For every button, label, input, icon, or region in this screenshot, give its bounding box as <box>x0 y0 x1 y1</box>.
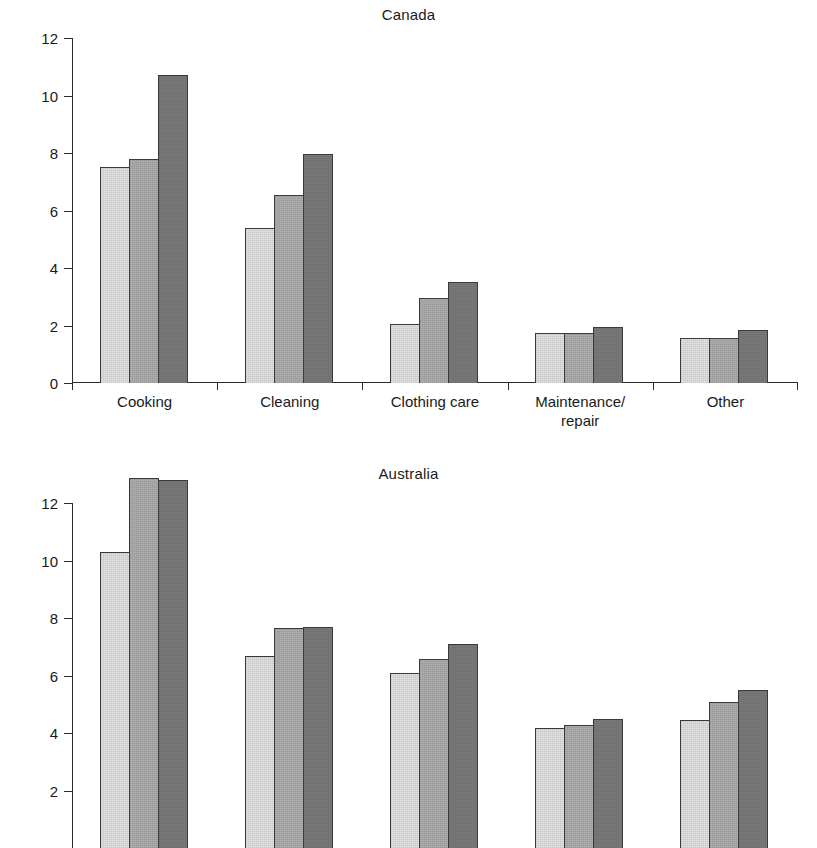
bar <box>303 154 333 383</box>
bar <box>274 195 304 383</box>
chart-title-canada: Canada <box>0 6 817 23</box>
bar-group <box>535 503 625 848</box>
y-tick-label: 10 <box>41 552 58 569</box>
bar <box>709 338 739 383</box>
y-tick-mark <box>64 733 72 734</box>
bar <box>100 552 130 848</box>
y-tick-mark <box>64 791 72 792</box>
bar-group <box>390 38 480 383</box>
x-tick-mark <box>72 383 73 390</box>
bar <box>158 75 188 383</box>
bar-group <box>680 38 770 383</box>
chart-panel-australia: Australia 24681012 <box>0 445 817 833</box>
category-label: Cleaning <box>217 392 362 411</box>
bar <box>680 338 710 383</box>
y-tick-mark <box>64 383 72 384</box>
chart-panel-canada: Canada 024681012 CookingCleaningClothing… <box>0 0 817 445</box>
y-tick-mark <box>64 38 72 39</box>
y-tick-label: 2 <box>50 317 58 334</box>
y-tick-label: 6 <box>50 202 58 219</box>
bar <box>419 298 449 383</box>
y-tick-label: 4 <box>50 725 58 742</box>
bar <box>448 282 478 383</box>
category-label-line: repair <box>508 411 653 430</box>
bar <box>419 659 449 848</box>
y-tick-mark <box>64 561 72 562</box>
y-tick-mark <box>64 676 72 677</box>
category-label: Clothing care <box>362 392 507 411</box>
category-label: Cooking <box>72 392 217 411</box>
category-label-line: Clothing care <box>362 392 507 411</box>
bar <box>158 480 188 848</box>
category-label-line: Cooking <box>72 392 217 411</box>
category-label-line: Cleaning <box>217 392 362 411</box>
bar <box>680 720 710 848</box>
plot-area-australia: 24681012 <box>72 503 798 848</box>
x-tick-mark <box>508 383 509 390</box>
bar-group <box>535 38 625 383</box>
category-label-line: Maintenance/ <box>508 392 653 411</box>
y-tick-mark <box>64 96 72 97</box>
y-tick-label: 12 <box>41 495 58 512</box>
bar <box>390 673 420 848</box>
bar <box>448 644 478 848</box>
bar-group <box>390 503 480 848</box>
y-tick-label: 10 <box>41 87 58 104</box>
y-axis-line-canada <box>72 38 73 383</box>
bar <box>709 702 739 848</box>
bar-group <box>100 38 190 383</box>
bar-group <box>245 503 335 848</box>
y-tick-mark <box>64 618 72 619</box>
bar <box>593 719 623 848</box>
y-tick-label: 2 <box>50 782 58 799</box>
x-tick-mark <box>217 383 218 390</box>
y-tick-mark <box>64 503 72 504</box>
y-tick-mark <box>64 211 72 212</box>
bar <box>245 656 275 848</box>
y-tick-mark <box>64 268 72 269</box>
bar-group <box>245 38 335 383</box>
plot-area-canada: 024681012 <box>72 38 798 383</box>
y-tick-label: 8 <box>50 610 58 627</box>
bar <box>564 725 594 848</box>
bar <box>390 324 420 383</box>
y-tick-label: 0 <box>50 375 58 392</box>
category-label: Maintenance/repair <box>508 392 653 430</box>
bar <box>738 330 768 383</box>
y-tick-mark <box>64 153 72 154</box>
bar <box>593 327 623 383</box>
category-label-line: Other <box>653 392 798 411</box>
bar <box>738 690 768 848</box>
bar-group <box>680 503 770 848</box>
y-tick-mark <box>64 326 72 327</box>
x-tick-mark <box>797 383 798 390</box>
bar <box>303 627 333 848</box>
bar <box>535 728 565 848</box>
bar <box>274 628 304 848</box>
bar-group <box>100 503 190 848</box>
y-axis-line-australia <box>72 503 73 848</box>
y-tick-label: 12 <box>41 30 58 47</box>
y-tick-label: 4 <box>50 260 58 277</box>
bar <box>564 333 594 383</box>
y-tick-label: 8 <box>50 145 58 162</box>
chart-title-australia: Australia <box>0 465 817 482</box>
x-tick-mark <box>362 383 363 390</box>
bar <box>535 333 565 383</box>
y-tick-label: 6 <box>50 667 58 684</box>
bar <box>100 167 130 383</box>
bar <box>129 159 159 383</box>
bar <box>129 478 159 848</box>
category-label: Other <box>653 392 798 411</box>
bar <box>245 228 275 383</box>
x-tick-mark <box>653 383 654 390</box>
